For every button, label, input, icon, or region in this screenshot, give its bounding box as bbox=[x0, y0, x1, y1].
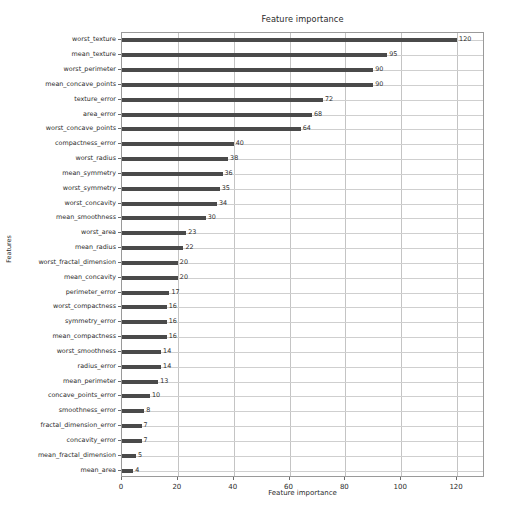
y-tick-mark bbox=[118, 217, 121, 218]
y-tick-mark bbox=[118, 336, 121, 337]
gridline-horizontal bbox=[122, 471, 483, 472]
bar-value-label: 95 bbox=[389, 51, 397, 57]
y-tick-mark bbox=[118, 440, 121, 441]
bar-value-label: 72 bbox=[325, 96, 333, 102]
y-tick-label: mean_fractal_dimension bbox=[38, 452, 116, 458]
y-tick-mark bbox=[118, 247, 121, 248]
bar-value-label: 20 bbox=[180, 259, 188, 265]
bar bbox=[122, 53, 387, 57]
y-tick-label: concavity_error bbox=[67, 437, 116, 443]
bar bbox=[122, 246, 183, 250]
y-tick-label: mean_compactness bbox=[52, 333, 116, 339]
chart-title: Feature importance bbox=[121, 14, 484, 24]
x-tick-mark bbox=[289, 477, 290, 480]
bar-value-label: 14 bbox=[163, 348, 171, 354]
bar-value-label: 8 bbox=[146, 407, 150, 413]
bar bbox=[122, 365, 161, 369]
y-tick-mark bbox=[118, 84, 121, 85]
bar-value-label: 34 bbox=[219, 200, 227, 206]
x-tick-mark bbox=[344, 477, 345, 480]
y-tick-label: worst_smoothness bbox=[57, 348, 116, 354]
bar-value-label: 36 bbox=[225, 170, 233, 176]
y-tick-mark bbox=[118, 321, 121, 322]
y-tick-mark bbox=[118, 381, 121, 382]
bar bbox=[122, 83, 373, 87]
y-tick-label: worst_concave_points bbox=[46, 125, 116, 131]
y-tick-mark bbox=[118, 99, 121, 100]
bar-value-label: 14 bbox=[163, 363, 171, 369]
bar bbox=[122, 454, 136, 458]
y-tick-label: compactness_error bbox=[55, 140, 116, 146]
y-tick-label: worst_concavity bbox=[64, 200, 116, 206]
y-tick-mark bbox=[118, 425, 121, 426]
bar bbox=[122, 424, 142, 428]
bar-value-label: 30 bbox=[208, 214, 216, 220]
y-tick-label: symmetry_error bbox=[65, 318, 116, 324]
y-tick-mark bbox=[118, 351, 121, 352]
y-tick-mark bbox=[118, 455, 121, 456]
bar bbox=[122, 157, 228, 161]
gridline-horizontal bbox=[122, 352, 483, 353]
bar-value-label: 64 bbox=[303, 125, 311, 131]
bar-value-label: 5 bbox=[138, 452, 142, 458]
y-tick-mark bbox=[118, 277, 121, 278]
bar-value-label: 7 bbox=[144, 422, 148, 428]
y-tick-label: worst_compactness bbox=[53, 303, 116, 309]
x-tick-mark bbox=[121, 477, 122, 480]
bar bbox=[122, 216, 206, 220]
gridline-horizontal bbox=[122, 396, 483, 397]
bar-value-label: 16 bbox=[169, 318, 177, 324]
bar-value-label: 68 bbox=[314, 111, 322, 117]
bar bbox=[122, 276, 178, 280]
bar-value-label: 90 bbox=[375, 81, 383, 87]
y-tick-label: area_error bbox=[83, 111, 116, 117]
bar bbox=[122, 409, 144, 413]
y-tick-label: worst_fractal_dimension bbox=[38, 259, 116, 265]
y-tick-label: mean_radius bbox=[75, 244, 116, 250]
y-tick-label: mean_area bbox=[80, 467, 116, 473]
y-tick-label: perimeter_error bbox=[66, 289, 116, 295]
bar bbox=[122, 469, 133, 473]
gridline-horizontal bbox=[122, 456, 483, 457]
y-tick-label: worst_radius bbox=[75, 155, 116, 161]
bar bbox=[122, 320, 167, 324]
bar bbox=[122, 98, 323, 102]
y-axis-label: Features bbox=[5, 219, 13, 279]
bar bbox=[122, 291, 169, 295]
bar bbox=[122, 335, 167, 339]
bar-value-label: 20 bbox=[180, 274, 188, 280]
bar-value-label: 22 bbox=[185, 244, 193, 250]
bar-value-label: 17 bbox=[171, 289, 179, 295]
y-tick-mark bbox=[118, 143, 121, 144]
y-tick-mark bbox=[118, 114, 121, 115]
bar bbox=[122, 394, 150, 398]
y-tick-label: fractal_dimension_error bbox=[41, 422, 116, 428]
gridline-horizontal bbox=[122, 411, 483, 412]
y-tick-label: radius_error bbox=[78, 363, 116, 369]
bar bbox=[122, 113, 312, 117]
bar-value-label: 90 bbox=[375, 66, 383, 72]
y-tick-label: texture_error bbox=[74, 96, 116, 102]
y-tick-label: mean_perimeter bbox=[63, 378, 116, 384]
y-tick-mark bbox=[118, 262, 121, 263]
y-tick-mark bbox=[118, 158, 121, 159]
y-tick-mark bbox=[118, 292, 121, 293]
bar-value-label: 23 bbox=[188, 229, 196, 235]
bar-value-label: 120 bbox=[459, 36, 471, 42]
bar-value-label: 10 bbox=[152, 392, 160, 398]
y-tick-label: mean_texture bbox=[72, 51, 116, 57]
plot-area bbox=[121, 32, 484, 477]
bar-value-label: 13 bbox=[160, 378, 168, 384]
bar-value-label: 35 bbox=[222, 185, 230, 191]
gridline-horizontal bbox=[122, 426, 483, 427]
bar bbox=[122, 172, 223, 176]
y-tick-mark bbox=[118, 410, 121, 411]
bar bbox=[122, 350, 161, 354]
gridline-horizontal bbox=[122, 441, 483, 442]
chart-figure: Feature importance worst_texturemean_tex… bbox=[0, 0, 512, 521]
bar bbox=[122, 202, 217, 206]
y-tick-mark bbox=[118, 173, 121, 174]
bar bbox=[122, 305, 167, 309]
y-tick-mark bbox=[118, 366, 121, 367]
bar-value-label: 16 bbox=[169, 333, 177, 339]
